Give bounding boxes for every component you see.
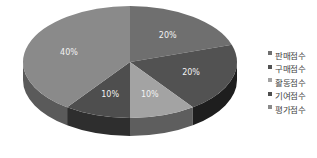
pie-slices <box>23 6 237 118</box>
legend: 판매점수 구매점수 활동점수 기여점수 평가점수 <box>268 48 306 116</box>
legend-item: 판매점수 <box>268 48 306 62</box>
legend-swatch-icon <box>268 78 272 82</box>
pie-data-label: 10% <box>141 90 159 99</box>
legend-swatch-icon <box>268 51 272 55</box>
legend-label: 구매점수 <box>275 62 306 74</box>
legend-label: 기여점수 <box>275 89 306 101</box>
legend-item: 기여점수 <box>268 89 306 103</box>
pie-data-label: 20% <box>159 31 177 40</box>
legend-label: 활동점수 <box>275 76 306 88</box>
legend-label: 판매점수 <box>275 49 306 61</box>
legend-item: 구매점수 <box>268 62 306 76</box>
legend-item: 평가점수 <box>268 102 306 116</box>
legend-swatch-icon <box>268 92 272 96</box>
legend-label: 평가점수 <box>275 103 306 115</box>
pie-data-label: 40% <box>60 48 78 57</box>
pie-data-label: 20% <box>182 68 200 77</box>
legend-swatch-icon <box>268 65 272 69</box>
pie-data-label: 10% <box>101 90 119 99</box>
legend-swatch-icon <box>268 105 272 109</box>
legend-item: 활동점수 <box>268 75 306 89</box>
